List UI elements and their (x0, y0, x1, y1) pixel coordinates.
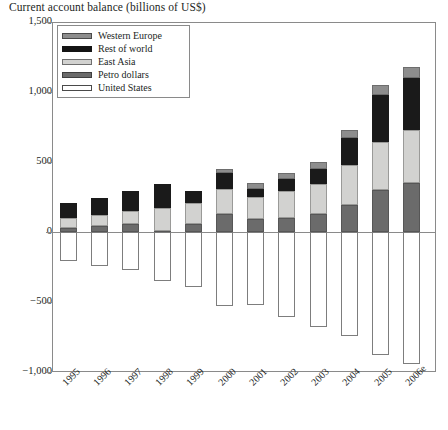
x-tick-label: 2004 (340, 366, 362, 388)
legend-item-petro-dollars: Petro dollars (62, 68, 185, 81)
chart-legend: Western Europe Rest of world East Asia P… (57, 25, 190, 98)
x-tick-label: 2002 (278, 366, 300, 388)
x-tick-label: 1997 (122, 366, 144, 388)
x-tick-label: 2001 (247, 366, 269, 388)
legend-label: Rest of world (98, 44, 152, 54)
legend-item-united-states: United States (62, 81, 185, 94)
legend-label: Western Europe (98, 31, 162, 41)
swatch-united-states-icon (62, 85, 92, 91)
swatch-east-asia-icon (62, 59, 92, 65)
swatch-petro-dollars-icon (62, 72, 92, 78)
legend-label: East Asia (98, 57, 136, 67)
x-tick-label: 1999 (184, 366, 206, 388)
x-tick-label: 1995 (60, 366, 82, 388)
x-tick-label: 2006e (403, 363, 428, 388)
legend-label: United States (98, 83, 152, 93)
legend-item-western-europe: Western Europe (62, 29, 185, 42)
x-tick-label: 2005 (372, 366, 394, 388)
x-tick-label: 2000 (216, 366, 238, 388)
x-tick-label: 2003 (309, 366, 331, 388)
x-tick-label: 1998 (153, 366, 175, 388)
swatch-rest-of-world-icon (62, 46, 92, 52)
legend-item-east-asia: East Asia (62, 55, 185, 68)
legend-item-rest-of-world: Rest of world (62, 42, 185, 55)
swatch-western-europe-icon (62, 33, 92, 39)
legend-label: Petro dollars (98, 70, 149, 80)
x-tick-label: 1996 (91, 366, 113, 388)
